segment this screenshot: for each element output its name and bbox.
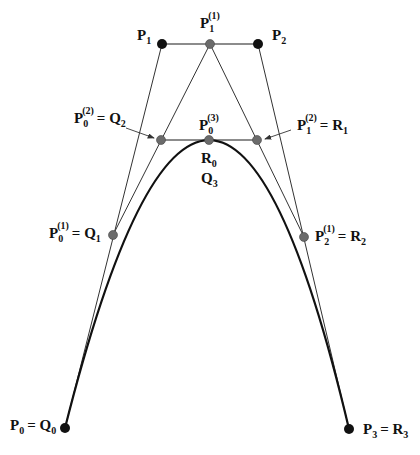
point-p1_1 [206,40,215,49]
point-p0_3 [205,136,214,145]
label-p0_2-q2: P0(2)= Q2 [74,105,126,129]
de-casteljau-diagram: P1 P1(1) P2 P0(2)= Q2 P0(3) P1(2)= R1 R0… [0,0,420,455]
label-r0: R0 [201,150,217,169]
label-p0-q0: P0= Q0 [10,417,56,436]
labels: P1 P1(1) P2 P0(2)= Q2 P0(3) P1(2)= R1 R0… [10,10,408,440]
point-p3 [344,424,354,434]
point-p2 [253,39,263,49]
point-p0 [60,423,70,433]
label-p0_3: P0(3) [199,112,219,136]
point-q1 [109,231,118,240]
point-p1 [157,39,167,49]
label-p1_1: P1(1) [200,10,220,34]
label-p3-r3: P3= R3 [363,421,408,440]
label-p1_2-r1: P1(2)= R1 [297,112,348,136]
point-q2 [157,136,166,145]
label-p2_1-r2: P2(1)= R2 [315,223,366,247]
control-points [60,39,354,434]
label-p0_1-q1: P0(1)= Q1 [49,220,101,244]
label-p2: P2 [272,27,286,46]
arrow-to-r1 [265,130,291,139]
label-p1: P1 [137,27,151,46]
point-r2 [300,233,309,242]
label-q3: Q3 [201,170,218,189]
point-r1 [253,136,262,145]
